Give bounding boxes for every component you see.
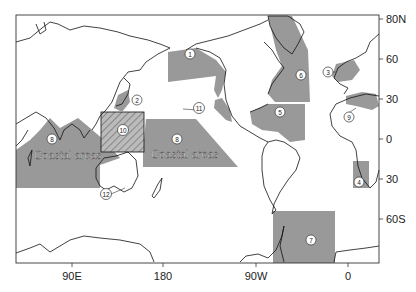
y-axis — [379, 19, 383, 219]
x-tick-0: 0 — [345, 270, 351, 282]
region-marker-12: 12 — [101, 189, 112, 200]
region-marker-7: 7 — [306, 235, 316, 245]
y-tick-30n: 30 — [386, 93, 398, 105]
region-marker-10: 10 — [118, 125, 129, 136]
x-axis — [72, 263, 348, 267]
shaded-regions — [16, 16, 379, 263]
y-tick-0: 0 — [386, 133, 392, 145]
coastal-areas-label-west: Coastal areas — [34, 149, 102, 161]
region-marker-11: 11 — [194, 103, 205, 114]
x-tick-90e: 90E — [62, 270, 82, 282]
coastal-areas-label-east: Coastal areas — [151, 148, 219, 160]
x-tick-180: 180 — [154, 270, 172, 282]
world-map: 80N 60 30 0 30 60S 90E 180 90W 0 Coastal… — [0, 0, 416, 292]
svg-text:4: 4 — [357, 179, 361, 186]
x-tick-90w: 90W — [245, 270, 268, 282]
svg-text:2: 2 — [135, 97, 139, 104]
svg-text:11: 11 — [196, 105, 203, 112]
region-marker-2: 2 — [132, 95, 142, 105]
svg-text:7: 7 — [309, 237, 313, 244]
region-marker-5: 5 — [275, 107, 285, 117]
svg-text:3: 3 — [326, 69, 330, 76]
region-marker-4: 4 — [354, 177, 364, 187]
svg-text:8: 8 — [175, 136, 179, 143]
y-tick-30s: 30 — [386, 173, 398, 185]
y-tick-60s: 60S — [386, 213, 406, 225]
svg-text:10: 10 — [119, 127, 127, 134]
y-tick-60n: 60 — [386, 53, 398, 65]
region-marker-6: 6 — [296, 70, 306, 80]
region-3-northsea — [332, 60, 360, 82]
region-marker-9: 9 — [344, 112, 354, 122]
svg-text:8: 8 — [50, 136, 54, 143]
region-11-california — [214, 98, 232, 122]
svg-text:5: 5 — [278, 109, 282, 116]
region-marker-3: 3 — [323, 67, 333, 77]
region-marker-8-west: 8 — [47, 134, 57, 144]
y-tick-80n: 80N — [386, 13, 406, 25]
svg-text:9: 9 — [347, 114, 351, 121]
svg-text:1: 1 — [188, 51, 192, 58]
region-marker-8-east: 8 — [172, 134, 182, 144]
svg-text:6: 6 — [299, 72, 303, 79]
region-marker-1: 1 — [185, 49, 195, 59]
region-6-nw-atlantic — [268, 16, 310, 102]
svg-text:12: 12 — [102, 191, 110, 198]
region-2-japan — [114, 90, 130, 112]
